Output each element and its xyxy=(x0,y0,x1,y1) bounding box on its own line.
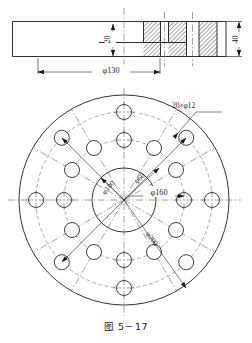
dimension-dia130: φ130 xyxy=(38,58,160,75)
plan-circular-view: 20×φ12 φ60 φ100 φ160 φ200 xyxy=(8,88,241,316)
hole xyxy=(147,245,162,260)
dim-label-h20: 20 xyxy=(103,35,112,43)
dimension-dia200: φ200 xyxy=(124,200,186,288)
hole xyxy=(147,141,162,156)
hole xyxy=(169,163,184,178)
figure-caption: 图 5－17 xyxy=(104,321,148,332)
callout-20x-dia12: 20×φ12 xyxy=(172,101,222,133)
technical-drawing-sheet: φ130 20 40 xyxy=(0,0,252,343)
dim-label-dia130: φ130 xyxy=(102,66,119,75)
hole xyxy=(87,141,102,156)
dimension-h20: 20 xyxy=(103,24,116,56)
hole xyxy=(65,223,80,238)
dim-label-dia100: φ100 xyxy=(100,178,117,196)
hole xyxy=(65,163,80,178)
section-hatching xyxy=(144,22,218,57)
section-outline xyxy=(13,22,227,57)
hole xyxy=(179,255,194,270)
front-sectional-view: φ130 20 40 xyxy=(13,8,245,75)
hole xyxy=(169,223,184,238)
callout-label-20x-dia12: 20×φ12 xyxy=(172,101,196,110)
dimension-h40: 40 xyxy=(226,22,244,57)
dim-label-dia160: φ160 xyxy=(150,188,167,197)
dim-label-dia60: φ60 xyxy=(132,171,147,186)
hole xyxy=(87,245,102,260)
dim-label-h40: 40 xyxy=(231,35,240,43)
